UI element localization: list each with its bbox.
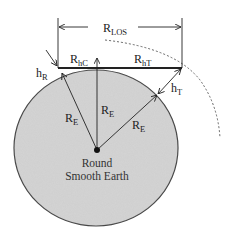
label-h-t: hT — [171, 81, 183, 97]
earth-caption-line1: Round — [82, 157, 113, 169]
earth-caption-line2: Smooth Earth — [65, 170, 129, 182]
hr-pointer — [46, 50, 57, 66]
label-r-los: RLOS — [103, 21, 127, 37]
label-r-ht: RhT — [134, 52, 152, 68]
los-diagram: RLOS RhC RhT hR hT RE RE RE Round Smooth… — [0, 0, 233, 235]
label-h-r: hR — [36, 66, 48, 82]
earth-center-dot — [94, 147, 100, 153]
label-r-hc: RhC — [70, 52, 88, 68]
